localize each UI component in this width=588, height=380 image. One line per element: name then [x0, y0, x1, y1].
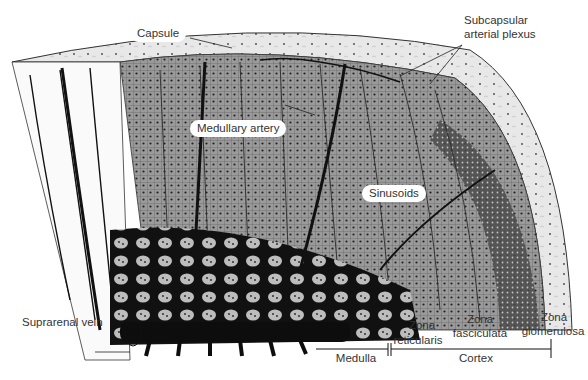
suprarenal-vein-label: Suprarenal vein: [22, 316, 103, 329]
zona-glomerulosa-label-line1: Zona: [520, 311, 588, 324]
zona-reticularis-label-line1: Zona: [402, 319, 442, 332]
capsule-label: Capsule: [130, 25, 186, 42]
zona-fasciculata-label-line1: Zona: [450, 313, 510, 326]
zona-fasciculata-label-line2: fasciculata: [450, 327, 510, 340]
subcapsular-plexus-label-line2: arterial plexus: [464, 28, 536, 41]
sinusoids-label: Sinusoids: [362, 185, 426, 202]
adrenal-diagram: Capsule Subcapsular arterial plexus Medu…: [0, 0, 588, 380]
medulla-label: Medulla: [326, 352, 386, 365]
zona-glomerulosa-label-line2: glomerulosa: [518, 325, 588, 338]
zona-reticularis-label-line2: reticularis: [388, 334, 448, 347]
medullary-artery-label: Medullary artery: [190, 120, 286, 137]
subcapsular-plexus-label-line1: Subcapsular: [464, 14, 528, 27]
cortex-label: Cortex: [446, 352, 506, 365]
